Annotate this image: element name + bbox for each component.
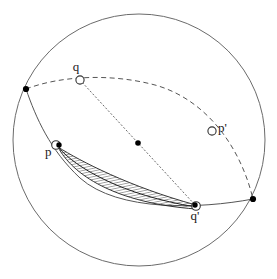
figure-root: q p' p q': [0, 0, 277, 279]
label-q-prime: q': [191, 208, 200, 223]
hatched-lens-region: [58, 147, 200, 209]
sphere-center-dot: [135, 140, 141, 146]
right-node-dot: [250, 196, 256, 202]
sphere-geodesic-figure: q p' p q': [0, 0, 277, 279]
point-p-dot: [56, 142, 61, 147]
label-p: p: [45, 144, 52, 159]
point-q-marker: [76, 76, 84, 84]
label-q: q: [73, 59, 80, 74]
label-p-prime: p': [218, 120, 227, 135]
point-p-prime-marker: [208, 127, 216, 135]
left-node-dot: [23, 86, 29, 92]
point-q-prime-dot: [192, 202, 197, 207]
dashed-great-circle-arc: [26, 77, 253, 199]
